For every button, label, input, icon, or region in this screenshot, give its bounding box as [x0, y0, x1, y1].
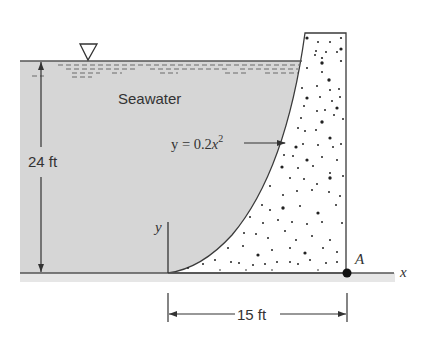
x-axis-label: x [399, 264, 407, 280]
width-label: 15 ft [237, 306, 267, 323]
seawater-label: Seawater [118, 90, 181, 107]
curve-equation: y = 0.2x2 [171, 133, 223, 152]
free-surface-marker-icon [80, 44, 97, 60]
dam-diagram: Seawater y = 0.2x2 24 ft 15 ft y x A [0, 0, 426, 339]
y-axis-label: y [153, 219, 162, 235]
point-a-marker [343, 269, 352, 278]
depth-label: 24 ft [28, 153, 58, 170]
ground-strip [20, 273, 395, 282]
point-a-label: A [354, 251, 365, 267]
